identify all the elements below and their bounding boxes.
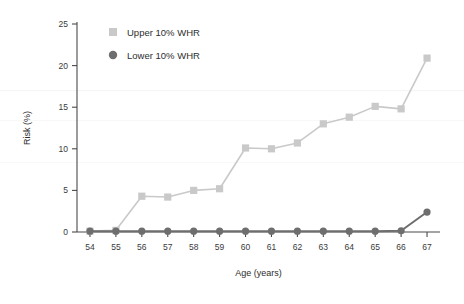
data-point-marker bbox=[86, 228, 93, 235]
y-tick-label: 10 bbox=[59, 144, 69, 154]
background-band bbox=[0, 120, 464, 121]
y-tick-label: 15 bbox=[59, 102, 69, 112]
x-tick-label: 65 bbox=[370, 242, 380, 252]
data-point-marker bbox=[398, 227, 405, 234]
data-point-marker bbox=[372, 228, 379, 235]
x-tick-label: 67 bbox=[422, 242, 432, 252]
data-point-marker bbox=[242, 228, 249, 235]
x-tick-label: 54 bbox=[85, 242, 95, 252]
x-tick-label: 58 bbox=[189, 242, 199, 252]
chart-background bbox=[0, 0, 464, 304]
x-tick-label: 56 bbox=[137, 242, 147, 252]
data-point-marker bbox=[268, 228, 275, 235]
chart-svg: 05101520255455565758596061626364656667Ag… bbox=[0, 0, 464, 304]
risk-by-age-chart: 05101520255455565758596061626364656667Ag… bbox=[0, 0, 464, 304]
data-point-marker bbox=[346, 228, 353, 235]
data-point-marker bbox=[372, 103, 379, 110]
x-tick-label: 62 bbox=[293, 242, 303, 252]
x-tick-label: 55 bbox=[111, 242, 121, 252]
data-point-marker bbox=[346, 114, 353, 121]
data-point-marker bbox=[164, 193, 171, 200]
data-point-marker bbox=[112, 228, 119, 235]
background-band bbox=[0, 162, 464, 163]
data-point-marker bbox=[190, 228, 197, 235]
data-point-marker bbox=[216, 185, 223, 192]
legend-marker-circle bbox=[109, 51, 117, 59]
legend-marker-square bbox=[109, 28, 117, 36]
x-tick-label: 59 bbox=[215, 242, 225, 252]
x-tick-label: 61 bbox=[267, 242, 277, 252]
data-point-marker bbox=[190, 187, 197, 194]
data-point-marker bbox=[138, 228, 145, 235]
y-tick-label: 20 bbox=[59, 61, 69, 71]
data-point-marker bbox=[294, 139, 301, 146]
data-point-marker bbox=[138, 193, 145, 200]
data-point-marker bbox=[268, 145, 275, 152]
data-point-marker bbox=[294, 228, 301, 235]
x-tick-label: 66 bbox=[396, 242, 406, 252]
data-point-marker bbox=[216, 228, 223, 235]
x-tick-label: 57 bbox=[163, 242, 173, 252]
data-point-marker bbox=[242, 144, 249, 151]
x-tick-label: 63 bbox=[319, 242, 329, 252]
y-axis-title: Risk (%) bbox=[22, 111, 32, 145]
y-tick-label: 25 bbox=[59, 19, 69, 29]
data-point-marker bbox=[164, 228, 171, 235]
data-point-marker bbox=[423, 208, 430, 215]
data-point-marker bbox=[423, 55, 430, 62]
data-point-marker bbox=[320, 120, 327, 127]
legend-item-label: Lower 10% WHR bbox=[127, 50, 200, 61]
x-tick-label: 64 bbox=[345, 242, 355, 252]
data-point-marker bbox=[398, 105, 405, 112]
data-point-marker bbox=[320, 228, 327, 235]
background-band bbox=[0, 90, 464, 91]
x-tick-label: 60 bbox=[241, 242, 251, 252]
legend-item-label: Upper 10% WHR bbox=[127, 27, 200, 38]
x-axis-title: Age (years) bbox=[235, 268, 282, 278]
y-tick-label: 0 bbox=[63, 227, 68, 237]
y-tick-label: 5 bbox=[63, 185, 68, 195]
